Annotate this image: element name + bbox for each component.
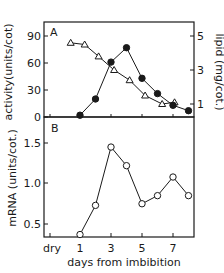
filled-circle-marker [170, 102, 176, 108]
open-circle-marker [185, 192, 191, 198]
left-y-axis-a: 0 30 60 90 [27, 30, 48, 124]
open-circle-marker [92, 202, 98, 208]
ytick-a-right-5: 5 [197, 30, 204, 43]
filled-circle-marker [108, 59, 114, 65]
ytick-a-0: 0 [34, 111, 41, 124]
xtick-5: 5 [139, 242, 146, 255]
ytick-a-right-3: 3 [197, 64, 204, 77]
xtick-7: 7 [170, 242, 177, 255]
xtick-3: 3 [108, 242, 115, 255]
open-circle-marker [108, 144, 114, 150]
right-y-axis-a: 5 3 1 [190, 30, 204, 111]
filled-circle-marker [123, 45, 129, 51]
series-mrna [77, 144, 192, 238]
xtick-1: 1 [77, 242, 84, 255]
open-circle-marker [77, 231, 83, 237]
ytick-b-1.0: 1.0 [24, 177, 42, 190]
ytick-b-1.5: 1.5 [24, 137, 42, 150]
xtick-dry: dry [43, 242, 62, 255]
ytick-a-90: 90 [27, 30, 41, 43]
y-axis-label-activity: activity(units/cot) [2, 24, 15, 121]
open-circle-marker [154, 192, 160, 198]
ytick-a-30: 30 [27, 84, 41, 97]
triangle-marker [126, 77, 133, 83]
panel-b-label: B [51, 122, 59, 135]
open-circle-marker [170, 174, 176, 180]
y-axis-label-mrna: mRNA (units/cot.) [6, 129, 19, 227]
ytick-a-right-1: 1 [197, 98, 204, 111]
open-circle-marker [139, 201, 145, 207]
ytick-a-60: 60 [27, 57, 41, 70]
x-axis-label: days from imbibition [67, 256, 181, 269]
triangle-marker [67, 39, 74, 45]
panel-a: A 0 30 60 90 5 3 1 [27, 22, 204, 124]
panel-a-label: A [50, 26, 58, 39]
figure: A 0 30 60 90 5 3 1 [0, 0, 224, 273]
filled-circle-marker [92, 96, 98, 102]
series-activity [77, 45, 192, 119]
x-axis-b: dry 1 3 5 7 days from imbibition [43, 233, 181, 269]
panel-b: B 1.5 1.0 0.5 dry 1 3 5 7 days from imbi… [24, 117, 195, 269]
y-axis-label-lipid: lipid (mg/cot.) [213, 33, 224, 110]
filled-circle-marker [139, 75, 145, 81]
filled-circle-marker [154, 90, 160, 96]
filled-circle-marker [185, 108, 191, 114]
open-circle-marker [123, 162, 129, 168]
ytick-b-0.5: 0.5 [24, 218, 42, 231]
